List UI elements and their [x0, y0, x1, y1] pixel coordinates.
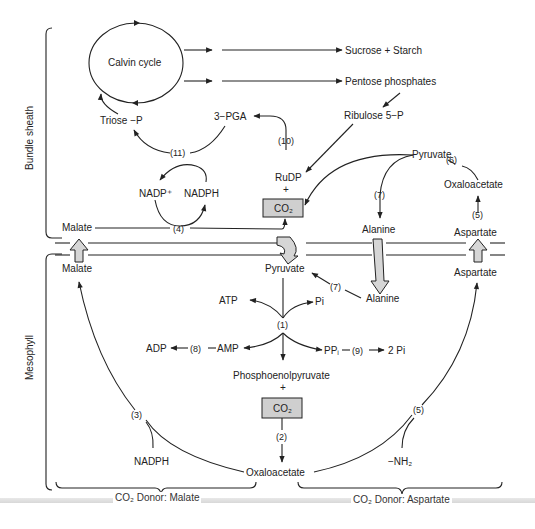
pep-plus: +	[280, 382, 286, 393]
step-7-bs-label: (7)	[374, 190, 385, 200]
oxaloacetate-bs-label: Oxaloacetate	[444, 179, 503, 190]
pi-label: Pi	[315, 296, 324, 307]
step-10-label: (10)	[278, 136, 294, 146]
pep-label: Phosphoenolpyruvate	[233, 370, 330, 381]
calvin-cycle-label: Calvin cycle	[108, 57, 162, 68]
step-11-label: (11)	[170, 148, 185, 158]
step-5-m-label: (5)	[413, 405, 424, 415]
alanine-m-label: Alanine	[366, 293, 400, 304]
donor-malate-label: CO₂ Donor: Malate	[113, 492, 201, 503]
malate-m-label: Malate	[62, 263, 92, 274]
step-2-label: (2)	[276, 432, 287, 442]
step-6-label: (6)	[446, 155, 457, 165]
amp-label: AMP	[217, 343, 239, 354]
3-pga-label: 3−PGA	[214, 111, 247, 122]
footer-divider	[0, 498, 535, 503]
oxaloacetate-m-label: Oxaloacetate	[246, 467, 305, 478]
step-9-label: (9)	[352, 346, 363, 356]
step-5-bs-label: (5)	[472, 210, 483, 220]
co2-bundle-label: CO₂	[274, 203, 293, 214]
malate-transport-arrow	[70, 239, 88, 262]
ppi-label: PPᵢ	[324, 345, 339, 356]
step-1-label: (1)	[277, 320, 288, 330]
sucrose-starch-label: Sucrose + Starch	[345, 45, 422, 56]
step-4-label: (4)	[173, 224, 184, 234]
nadph-bs-label: NADPH	[184, 188, 219, 199]
c4-pathway-diagram: Bundle sheath Mesophyll Calvin cycle Suc…	[0, 0, 535, 529]
nadp-plus-label: NADP⁺	[139, 188, 172, 199]
mesophyll-bracket	[46, 254, 62, 490]
pyruvate-transport-arrow	[277, 237, 298, 264]
alanine-transport-arrow	[371, 239, 389, 294]
mesophyll-label: Mesophyll	[24, 335, 35, 380]
triose-p-label: Triose −P	[100, 115, 143, 126]
aspartate-transport-arrow	[469, 239, 487, 262]
aspartate-m-label: Aspartate	[454, 267, 497, 278]
step-3-label: (3)	[131, 410, 142, 420]
atp-label: ATP	[219, 295, 238, 306]
pentose-phosphates-label: Pentose phosphates	[345, 76, 436, 87]
step-7-m-label: (7)	[330, 282, 341, 292]
rudp-plus: +	[283, 184, 289, 195]
step-8-label: (8)	[190, 344, 201, 354]
pyruvate-m-label: Pyruvate	[265, 263, 305, 274]
aspartate-donor-brace	[298, 482, 502, 494]
ribulose-5p-label: Ribulose 5−P	[344, 110, 404, 121]
alanine-bs-label: Alanine	[362, 224, 396, 235]
bundle-sheath-label: Bundle sheath	[24, 106, 35, 170]
malate-bs-label: Malate	[62, 222, 92, 233]
donor-aspartate-label: CO₂ Donor: Aspartate	[351, 494, 452, 505]
two-pi-label: 2 Pi	[388, 345, 405, 356]
adp-label: ADP	[146, 343, 167, 354]
co2-m-label: CO₂	[273, 403, 292, 414]
nadph-m-label: NADPH	[134, 456, 169, 467]
rudp-label: RuDP	[275, 172, 302, 183]
aspartate-bs-label: Aspartate	[454, 227, 497, 238]
bundle-sheath-bracket	[46, 28, 62, 238]
nh2-label: −NH₂	[388, 456, 412, 467]
